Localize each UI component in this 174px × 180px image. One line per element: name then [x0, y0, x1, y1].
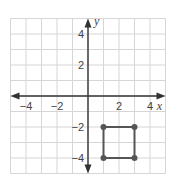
y-axis-label: y — [93, 14, 100, 28]
x-tick-label: −2 — [51, 100, 64, 112]
vertex-point — [132, 124, 138, 130]
coordinate-plane: −4−22442−2−4xy — [0, 0, 174, 180]
x-axis-left-arrow-icon — [11, 93, 20, 100]
y-axis-down-arrow-icon — [85, 165, 92, 174]
vertex-point — [101, 124, 107, 130]
y-tick-label: −4 — [71, 152, 84, 164]
vertex-point — [101, 155, 107, 161]
y-tick-label: −2 — [71, 121, 84, 133]
x-tick-label: 2 — [116, 100, 122, 112]
x-tick-label: 4 — [147, 100, 153, 112]
y-axis-up-arrow-icon — [85, 19, 92, 28]
vertex-point — [132, 155, 138, 161]
x-tick-label: −4 — [20, 100, 33, 112]
x-axis-label: x — [156, 99, 163, 113]
y-tick-label: 4 — [78, 28, 84, 40]
y-tick-label: 2 — [78, 59, 84, 71]
axes — [11, 19, 166, 174]
